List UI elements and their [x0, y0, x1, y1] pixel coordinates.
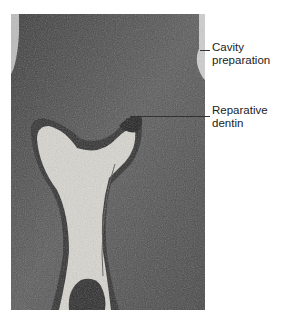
label-reparative-dentin: Reparative dentin — [212, 104, 268, 130]
label-cavity-preparation: Cavity preparation — [212, 41, 270, 67]
label-line: Cavity — [212, 41, 270, 54]
label-line: Reparative — [212, 104, 268, 117]
reparative-leader-line — [130, 116, 210, 117]
label-line: dentin — [212, 117, 268, 130]
cavity-leader-line — [200, 50, 210, 51]
label-line: preparation — [212, 54, 270, 67]
micrograph-image — [11, 14, 205, 310]
